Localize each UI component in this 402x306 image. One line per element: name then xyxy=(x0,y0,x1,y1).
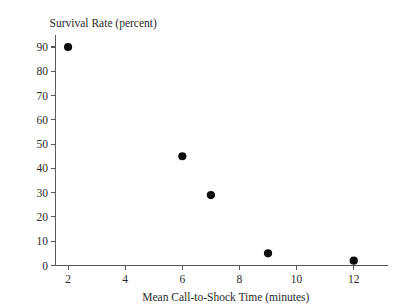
x-tick-label: 4 xyxy=(122,273,128,285)
data-point xyxy=(64,43,72,51)
y-tick-label: 10 xyxy=(37,235,49,247)
y-tick-label: 60 xyxy=(37,114,49,126)
data-point xyxy=(264,249,272,257)
y-tick-label: 80 xyxy=(37,65,49,77)
x-tick-label: 10 xyxy=(291,273,303,285)
x-tick-label: 6 xyxy=(179,273,185,285)
y-axis-title: Survival Rate (percent) xyxy=(50,17,157,30)
x-tick-label: 12 xyxy=(348,273,360,285)
x-tick-label: 2 xyxy=(65,273,71,285)
y-tick-label: 0 xyxy=(42,260,48,272)
y-tick-label: 20 xyxy=(37,211,49,223)
chart-container: 010203040506070809024681012Survival Rate… xyxy=(0,0,402,306)
y-tick-label: 70 xyxy=(37,90,49,102)
y-tick-label: 40 xyxy=(37,162,49,174)
y-tick-label: 50 xyxy=(37,138,49,150)
data-point xyxy=(178,152,186,160)
x-tick-label: 8 xyxy=(237,273,243,285)
y-tick-label: 30 xyxy=(37,187,49,199)
data-point xyxy=(207,191,215,199)
data-point xyxy=(350,257,358,265)
scatter-plot: 010203040506070809024681012Survival Rate… xyxy=(0,0,402,306)
y-tick-label: 90 xyxy=(37,41,49,53)
x-axis-title: Mean Call-to-Shock Time (minutes) xyxy=(142,291,309,304)
